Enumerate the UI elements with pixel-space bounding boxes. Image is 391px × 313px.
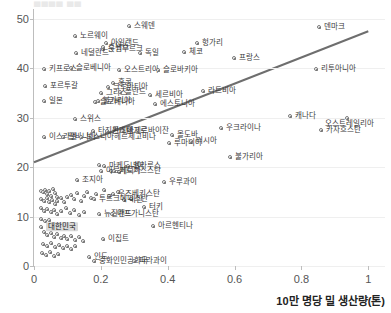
data-point[interactable]: [99, 169, 103, 173]
data-point[interactable]: [79, 135, 83, 139]
data-point[interactable]: [87, 255, 91, 259]
data-point[interactable]: [85, 190, 89, 194]
data-point[interactable]: [97, 212, 101, 216]
data-point[interactable]: [52, 208, 56, 212]
data-point[interactable]: [112, 169, 116, 173]
data-point[interactable]: [195, 41, 199, 45]
data-point[interactable]: [92, 259, 96, 263]
data-point[interactable]: [72, 208, 76, 212]
data-point[interactable]: [69, 247, 73, 251]
data-point[interactable]: [65, 237, 69, 241]
data-point-label: 포르투갈: [50, 82, 78, 90]
data-point[interactable]: [317, 25, 321, 29]
data-point[interactable]: [189, 139, 193, 143]
gridline: [34, 19, 385, 20]
data-point-label: 에스토니아: [160, 100, 195, 108]
gridline: [34, 167, 385, 168]
data-point[interactable]: [170, 133, 174, 137]
data-point[interactable]: [151, 224, 155, 228]
data-point[interactable]: [167, 141, 171, 145]
x-tick-label: 0.2: [93, 266, 108, 285]
data-point[interactable]: [45, 244, 49, 248]
data-point[interactable]: [42, 67, 46, 71]
data-point-label: 라트비아: [208, 87, 236, 95]
data-point-label: 보스니아헤르체고비나: [86, 133, 156, 141]
data-point-label: 대한민국: [46, 222, 78, 232]
data-point-label: 네덜란드: [81, 49, 109, 57]
data-point[interactable]: [53, 191, 57, 195]
data-point[interactable]: [47, 218, 51, 222]
data-point[interactable]: [288, 114, 292, 118]
data-point[interactable]: [74, 51, 78, 55]
data-point[interactable]: [72, 197, 76, 201]
plot-area: 0102030405000.20.40.60.81스웨덴노르웨이아일랜드룭셈부르…: [33, 9, 385, 267]
data-point[interactable]: [56, 252, 60, 256]
data-point[interactable]: [62, 200, 66, 204]
data-point[interactable]: [148, 93, 152, 97]
data-point[interactable]: [77, 213, 81, 217]
data-point[interactable]: [42, 135, 46, 139]
data-point[interactable]: [73, 238, 77, 242]
data-point[interactable]: [42, 99, 46, 103]
gridline: [34, 217, 385, 218]
data-point-label: 이집트: [108, 235, 129, 243]
data-point-label: 불가리아: [103, 97, 131, 105]
data-point-label: 키르기스스탄: [119, 167, 161, 175]
data-point[interactable]: [319, 128, 323, 132]
data-point-label: 우루과이: [169, 178, 197, 186]
data-point[interactable]: [127, 24, 131, 28]
data-point[interactable]: [73, 244, 77, 248]
data-point-label: 폴란드: [125, 88, 146, 96]
data-point[interactable]: [43, 84, 47, 88]
data-point[interactable]: [61, 135, 65, 139]
data-point[interactable]: [232, 56, 236, 60]
data-point[interactable]: [153, 102, 157, 106]
data-point[interactable]: [45, 196, 49, 200]
data-point[interactable]: [69, 193, 73, 197]
data-point-label: 불가리아: [235, 154, 263, 162]
data-point[interactable]: [59, 209, 63, 213]
data-point-label: 그리스: [106, 89, 127, 97]
data-point[interactable]: [96, 99, 100, 103]
data-point[interactable]: [75, 178, 79, 182]
data-point[interactable]: [73, 117, 77, 121]
data-point[interactable]: [162, 180, 166, 184]
data-point[interactable]: [118, 90, 122, 94]
gridline: [34, 266, 385, 267]
data-point[interactable]: [73, 34, 77, 38]
data-point-label: 독일: [145, 50, 159, 58]
data-point[interactable]: [94, 192, 98, 196]
data-point[interactable]: [102, 188, 106, 192]
y-tick-label: 30: [17, 112, 34, 124]
data-point[interactable]: [44, 253, 48, 257]
clipped-chart-title: ▄▄▄▄ ▄▄: [34, 0, 82, 6]
data-point[interactable]: [92, 197, 96, 201]
data-point[interactable]: [156, 68, 160, 72]
data-point[interactable]: [132, 259, 136, 263]
x-tick-label: 0.4: [160, 266, 175, 285]
data-point-label: 러시아: [196, 138, 217, 146]
data-point[interactable]: [69, 66, 73, 70]
data-point[interactable]: [69, 234, 73, 238]
data-point[interactable]: [201, 89, 205, 93]
data-point[interactable]: [39, 225, 43, 229]
data-point[interactable]: [182, 50, 186, 54]
data-point[interactable]: [99, 91, 103, 95]
data-point[interactable]: [64, 206, 68, 210]
data-point-label: 파라과이: [139, 257, 167, 265]
data-point[interactable]: [110, 212, 114, 216]
data-point[interactable]: [82, 210, 86, 214]
data-point[interactable]: [314, 67, 318, 71]
data-point-label: 스웨덴: [134, 22, 155, 30]
data-point[interactable]: [219, 126, 223, 130]
data-point[interactable]: [77, 235, 81, 239]
data-point[interactable]: [75, 191, 79, 195]
data-point[interactable]: [81, 239, 85, 243]
data-point[interactable]: [101, 237, 105, 241]
data-point[interactable]: [117, 68, 121, 72]
data-point[interactable]: [228, 155, 232, 159]
data-point[interactable]: [79, 199, 83, 203]
data-point[interactable]: [82, 194, 86, 198]
data-point[interactable]: [138, 51, 142, 55]
data-point-label: 일본: [49, 97, 63, 105]
